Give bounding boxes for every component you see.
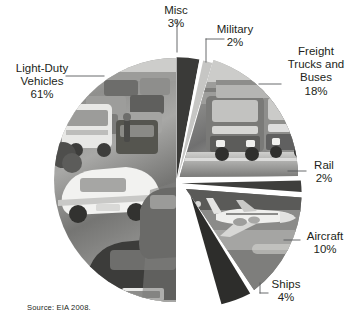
pie-label-light-duty-vehicles: Light-Duty Vehicles 61%	[2, 62, 82, 102]
pie-label-misc-line1: Misc	[152, 4, 200, 17]
pie-label-ships-value: 4%	[265, 291, 307, 304]
pie-label-light-duty-value: 61%	[2, 88, 82, 101]
pie-label-misc-value: 3%	[152, 17, 200, 30]
pie-label-aircraft-value: 10%	[299, 243, 351, 256]
pie-label-freight-trucks-and-buses: Freight Trucks and Buses 18%	[281, 45, 351, 98]
pie-label-freight-line3: Buses	[281, 71, 351, 84]
pie-label-military-line1: Military	[206, 23, 264, 36]
pie-label-ships: Ships 4%	[265, 278, 307, 304]
pie-label-light-duty-line2: Vehicles	[2, 75, 82, 88]
pie-label-rail-value: 2%	[305, 172, 343, 185]
pie-label-ships-line1: Ships	[265, 278, 307, 291]
pie-label-military: Military 2%	[206, 23, 264, 49]
pie-label-military-value: 2%	[206, 36, 264, 49]
pie-label-freight-value: 18%	[281, 85, 351, 98]
pie-label-freight-line2: Trucks and	[281, 58, 351, 71]
source-note: Source: EIA 2008.	[27, 303, 91, 312]
pie-label-rail: Rail 2%	[305, 159, 343, 185]
pie-label-freight-line1: Freight	[281, 45, 351, 58]
pie-label-rail-line1: Rail	[305, 159, 343, 172]
pie-label-light-duty-line1: Light-Duty	[2, 62, 82, 75]
pie-chart-figure: Light-Duty Vehicles 61% Misc 3% Military…	[0, 0, 353, 327]
pie-label-aircraft: Aircraft 10%	[299, 230, 351, 256]
pie-label-misc: Misc 3%	[152, 4, 200, 30]
pie-label-aircraft-line1: Aircraft	[299, 230, 351, 243]
